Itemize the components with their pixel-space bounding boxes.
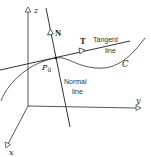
- z-axis-arrow-icon: [25, 7, 31, 12]
- y-axis: y: [28, 96, 141, 111]
- y-axis-arrow-icon: [136, 106, 141, 111]
- point-p0-label: P0: [41, 63, 51, 73]
- z-axis-label: z: [33, 6, 39, 15]
- normal-vector-arrow-icon: [48, 29, 54, 35]
- normal-line-label-2: line: [72, 88, 83, 95]
- tangent-line: [0, 41, 130, 70]
- point-p0: [55, 57, 58, 60]
- normal-vector-label: N: [55, 28, 62, 38]
- tangent-normal-diagram: z y x N T Tangent line P0 Normal line C: [0, 0, 151, 157]
- x-axis-label: x: [9, 148, 14, 157]
- z-axis: z: [25, 6, 39, 106]
- y-axis-label: y: [135, 96, 141, 105]
- tangent-line-label: Tangent: [93, 36, 118, 44]
- curve-c-label: C: [122, 59, 129, 69]
- tangent-vector-label: T: [80, 36, 86, 46]
- tangent-line-label-2: line: [105, 47, 116, 54]
- x-axis: x: [5, 106, 28, 157]
- normal-line-label: Normal: [64, 78, 87, 85]
- tangent-vector-arrow-icon: [79, 48, 85, 54]
